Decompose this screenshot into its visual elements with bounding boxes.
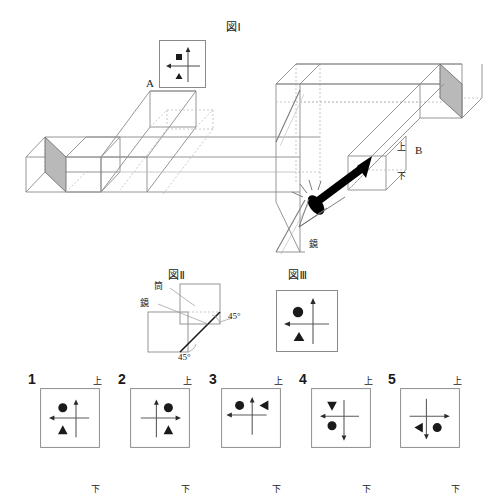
fig1-label-mirror: 鏡 — [309, 240, 318, 249]
option-5[interactable]: 5 上 下 — [382, 372, 474, 496]
fig3-box-contents — [277, 291, 339, 353]
mark-circle — [164, 403, 173, 412]
option-4-box[interactable] — [311, 388, 371, 448]
option-3-box[interactable] — [221, 388, 281, 448]
fig1-label-up: 上 — [397, 143, 406, 152]
mirror-surface-right — [440, 64, 462, 118]
mirror-surface-left — [45, 137, 66, 192]
option-5-up-label: 上 — [453, 374, 462, 387]
leader-tube — [170, 288, 195, 306]
fig2-label-tube: 筒 — [154, 282, 163, 291]
mark-circle — [235, 401, 244, 410]
axis-arrow-up — [310, 298, 315, 304]
option-3-down-label: 下 — [272, 482, 281, 495]
fig1-tube-geometry — [0, 14, 488, 264]
option-4[interactable]: 4 上 下 — [293, 372, 385, 496]
fig2-angle-right: 45° — [228, 312, 241, 321]
mark-triangle-up — [294, 332, 305, 341]
option-5-number: 5 — [388, 372, 396, 386]
arm-a-top-face — [101, 91, 196, 157]
option-5-box[interactable] — [400, 388, 460, 448]
option-2-box[interactable] — [130, 388, 190, 448]
option-2[interactable]: 2 上 下 — [112, 372, 204, 496]
figure-3-observed-image — [272, 268, 362, 366]
mark-circle — [58, 403, 67, 412]
mark-circle — [293, 307, 303, 317]
fig2-angle-bottom: 45° — [178, 353, 191, 362]
elbow-left-top — [26, 137, 120, 157]
option-2-down-label: 下 — [181, 482, 190, 495]
viewing-direction-arrow — [314, 156, 372, 204]
object-marker-box — [159, 40, 206, 88]
option-1-up-label: 上 — [93, 374, 102, 387]
fig1-label-a: A — [146, 78, 154, 89]
option-1-box[interactable] — [40, 388, 100, 448]
option-5-down-label: 下 — [451, 482, 460, 495]
marker-box-contents — [160, 41, 207, 89]
option-4-down-label: 下 — [362, 482, 371, 495]
fig1-label-down: 下 — [397, 172, 406, 181]
fig3-marker-box — [276, 290, 338, 352]
option-3[interactable]: 3 上 下 — [203, 372, 295, 496]
option-1[interactable]: 1 上 下 — [22, 372, 114, 496]
figure-2-mirror-cross-section: 筒 鏡 45° 45° — [140, 268, 260, 366]
mark-triangle — [176, 73, 183, 79]
answer-options-row: 1 上 下 2 上 下 — [0, 372, 488, 496]
option-1-number: 1 — [28, 372, 36, 386]
option-4-up-label: 上 — [364, 374, 373, 387]
axis-arrow-left — [166, 64, 171, 69]
axis-arrow-left — [284, 321, 290, 326]
mirror-45-line — [180, 312, 220, 352]
figure-1-periscope-diagram: A B 上 下 鏡 — [0, 14, 488, 264]
tube-horizontal — [148, 312, 188, 352]
option-4-number: 4 — [299, 372, 307, 386]
mark-square — [176, 54, 182, 60]
mark-circle — [433, 423, 442, 432]
axis-arrow-up — [186, 47, 191, 52]
mark-circle — [328, 421, 337, 430]
option-3-number: 3 — [209, 372, 217, 386]
option-2-number: 2 — [118, 372, 126, 386]
b-arm-top-edge — [348, 84, 420, 156]
fig2-label-mirror: 鏡 — [140, 299, 149, 308]
option-2-up-label: 上 — [183, 374, 192, 387]
leader-mirror — [158, 304, 208, 324]
option-1-down-label: 下 — [91, 482, 100, 495]
fig1-label-b: B — [415, 145, 422, 156]
option-3-up-label: 上 — [274, 374, 283, 387]
